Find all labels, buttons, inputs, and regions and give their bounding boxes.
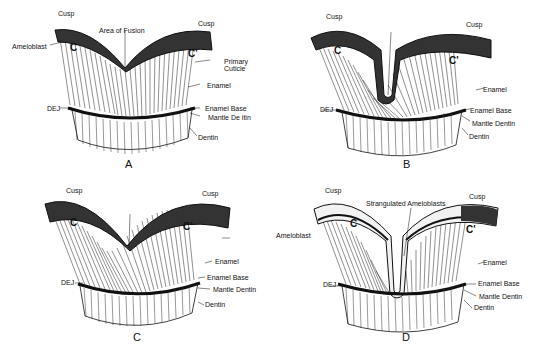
label-mantle-dentin: Mantle De itin	[208, 114, 251, 121]
label-cusp-left: Cusp	[326, 13, 342, 20]
label-ameloblast: Ameloblast	[276, 232, 311, 239]
label-dej: DEJ	[320, 106, 333, 113]
cusp-letter-c: C	[350, 218, 357, 229]
label-cusp-right: Cusp	[202, 190, 218, 197]
label-enamel: Enamel	[207, 82, 231, 89]
cusp-letter-c-prime: C'	[188, 48, 198, 59]
label-enamel-base: Enamel Base	[478, 280, 520, 287]
label-enamel-base: Enamel Base	[207, 274, 249, 281]
panel-a: Cusp Cusp Area of Fusion Ameloblast Prim…	[0, 0, 266, 176]
cusp-letter-c: C	[334, 45, 341, 56]
label-cusp-right: Cusp	[198, 20, 214, 27]
label-mantle-dentin: Mantle Dentin	[472, 120, 515, 127]
panel-letter: A	[125, 158, 132, 170]
panel-b: Cusp Cusp Enamel DEJ Enamel Base Mantle …	[0, 176, 266, 352]
panel-c: Cusp Cusp Enamel DEJ Enamel Base Mantle …	[266, 0, 532, 176]
panel-letter: C	[133, 331, 141, 343]
label-area-of-fusion: Area of Fusion	[99, 27, 145, 34]
label-mantle-dentin: Mantle Dentin	[213, 286, 256, 293]
label-mantle-dentin: Mantle Dentin	[479, 293, 522, 300]
label-dentin: Dentin	[205, 301, 225, 308]
cusp-letter-c-prime: C'	[449, 55, 459, 66]
label-enamel: Enamel	[483, 259, 507, 266]
label-dej: DEJ	[47, 105, 60, 112]
label-ameloblast: Ameloblast	[12, 43, 47, 50]
label-cusp-right: Cusp	[466, 21, 482, 28]
label-dentin: Dentin	[469, 133, 489, 140]
cusp-letter-c-prime: C'	[466, 224, 476, 235]
cusp-letter-c-prime: C'	[183, 221, 193, 232]
label-dentin: Dentin	[474, 304, 494, 311]
label-cusp-left: Cusp	[66, 187, 82, 194]
label-dentin: Dentin	[198, 134, 218, 141]
label-enamel-base: Enamel Base	[470, 107, 512, 114]
cusp-letter-c: C	[70, 217, 77, 228]
label-cusp-right: Cusp	[469, 193, 485, 200]
cusp-letter-c: C	[70, 42, 77, 53]
label-enamel: Enamel	[483, 86, 507, 93]
label-enamel-base: Enamel Base	[205, 105, 247, 112]
label-primary-cuticle-1: Primary	[224, 58, 248, 65]
label-enamel: Enamel	[215, 258, 239, 265]
label-dej: DEJ	[61, 279, 74, 286]
panel-letter: B	[403, 158, 410, 170]
label-primary-cuticle-2: Cuticle	[224, 65, 245, 72]
label-cusp-left: Cusp	[58, 10, 74, 17]
label-cusp-left: Cusp	[325, 187, 341, 194]
label-strangulated-ameloblasts: Strangulated Ameloblasts	[366, 200, 445, 207]
panel-d: Cusp Cusp Strangulated Ameloblasts Amelo…	[266, 176, 532, 352]
label-dej: DEJ	[323, 281, 336, 288]
panel-letter: D	[402, 331, 410, 343]
